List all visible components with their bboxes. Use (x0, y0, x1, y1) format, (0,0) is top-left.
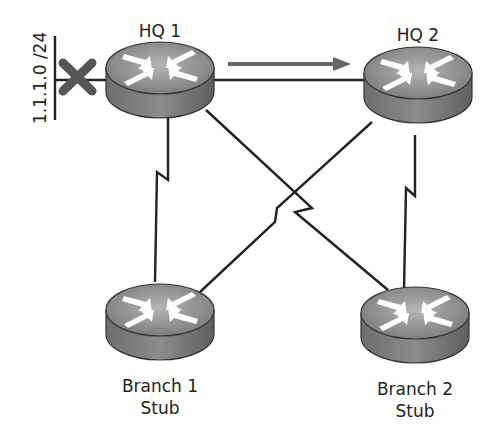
label-hq1: HQ 1 (120, 20, 200, 42)
x-icon (63, 63, 92, 91)
router-branch2-icon[interactable] (361, 287, 469, 363)
link-hq1-branch2 (206, 110, 388, 290)
label-branch1: Branch 1 Stub (100, 375, 220, 419)
link-hq2-branch1 (200, 122, 372, 292)
label-branch2-name: Branch 2 (355, 378, 475, 400)
router-hq2-icon[interactable] (364, 47, 472, 123)
link-hq2-branch2 (404, 135, 415, 290)
label-branch1-name: Branch 1 (100, 375, 220, 397)
network-label: 1.1.1.0 /24 (30, 32, 50, 124)
direction-arrow-icon (228, 57, 351, 71)
label-branch1-type: Stub (100, 397, 220, 419)
label-branch2: Branch 2 Stub (355, 378, 475, 422)
router-branch1-icon[interactable] (106, 284, 214, 360)
link-hq1-branch1 (155, 112, 168, 282)
router-hq1-icon[interactable] (106, 42, 214, 118)
label-branch2-type: Stub (355, 400, 475, 422)
label-hq2: HQ 2 (378, 24, 458, 46)
